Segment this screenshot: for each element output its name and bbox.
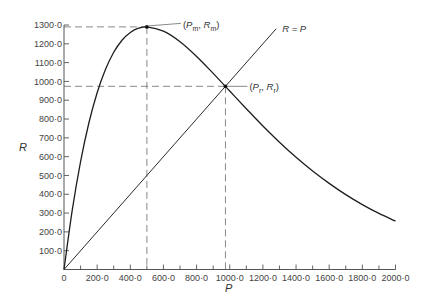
x-tick-label: 2000·0 — [381, 273, 409, 283]
axes — [64, 25, 396, 270]
y-tick-label: 100·0 — [39, 246, 62, 256]
annotations: (Pm, Rm)(Pr, Rr) — [145, 19, 279, 93]
maximum-recruitment-label: (Pm, Rm) — [183, 19, 220, 32]
x-tick-label: 0 — [61, 273, 66, 283]
x-tick-label: 400·0 — [119, 273, 142, 283]
y-tick-label: 1200·0 — [34, 39, 62, 49]
x-tick-label: 1800·0 — [348, 273, 376, 283]
stock-recruitment-chart: 0200·0400·0600·0800·01000·01200·01400·01… — [0, 0, 426, 302]
x-tick-label: 200·0 — [86, 273, 109, 283]
label-part: ) — [216, 19, 219, 30]
replacement-point-label: (Pr, Rr) — [249, 81, 279, 94]
y-tick-label: 500·0 — [39, 171, 62, 181]
dashed-guides — [64, 27, 225, 270]
y-tick-label: 900·0 — [39, 95, 62, 105]
y-tick-label: 1100·0 — [35, 58, 62, 68]
series-layer: R = P — [64, 23, 396, 270]
y-tick-label: 400·0 — [39, 189, 62, 199]
replacement-line-label: R = P — [282, 23, 307, 34]
x-tick-label: 800·0 — [185, 273, 208, 283]
x-tick-label: 1400·0 — [282, 273, 310, 283]
y-axis-title: R — [19, 141, 27, 153]
axis-ticks: 0200·0400·0600·0800·01000·01200·01400·01… — [34, 20, 410, 283]
replacement-line — [64, 29, 276, 270]
x-tick-label: 600·0 — [152, 273, 175, 283]
x-tick-label: 1600·0 — [315, 273, 343, 283]
x-tick-label: 1200·0 — [249, 273, 277, 283]
y-tick-label: 300·0 — [39, 208, 62, 218]
y-tick-label: 600·0 — [39, 152, 62, 162]
y-tick-label: 200·0 — [39, 227, 62, 237]
y-tick-label: 1300·0 — [34, 20, 62, 30]
maximum-recruitment-pointer — [148, 23, 181, 26]
maximum-recruitment-point — [145, 25, 149, 29]
replacement-point-point — [224, 84, 228, 88]
y-tick-label: 800·0 — [39, 114, 62, 124]
y-tick-label: 1000·0 — [34, 77, 62, 87]
label-part: ) — [276, 81, 279, 92]
recruitment-curve — [64, 27, 396, 270]
y-tick-label: 700·0 — [39, 133, 62, 143]
x-axis-title: P — [225, 282, 233, 294]
